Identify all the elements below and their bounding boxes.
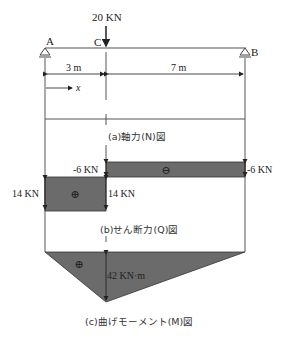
span-ac-label: 3 m bbox=[66, 62, 82, 73]
point-a-label: A bbox=[46, 35, 54, 47]
moment-max-value: 42 KN·m bbox=[107, 270, 145, 281]
dimension-cb: 7 m bbox=[108, 62, 243, 74]
negative-sign-icon: ⊖ bbox=[161, 164, 170, 176]
shear-left-value: 14 KN bbox=[12, 188, 39, 199]
point-b-label: B bbox=[251, 46, 258, 58]
beam-diagram: 20 KN A C B 3 m 7 m x (a)軸力(N)図 ⊖ ⊕ 14 K… bbox=[0, 0, 281, 338]
shear-negative-region bbox=[106, 162, 245, 177]
support-b-icon bbox=[240, 48, 250, 55]
moment-caption: (c)曲げモーメント(M)図 bbox=[85, 316, 193, 327]
positive-sign-icon: ⊕ bbox=[70, 188, 79, 200]
shear-c-negative-value: -6 KN bbox=[73, 164, 98, 175]
shear-caption: (b)せん断力(Q)図 bbox=[100, 224, 178, 235]
shear-right-value: -6 KN bbox=[247, 164, 272, 175]
support-a-icon bbox=[40, 48, 50, 55]
x-axis-arrow: x bbox=[46, 82, 81, 93]
point-c-label: C bbox=[94, 36, 101, 48]
axial-caption: (a)軸力(N)図 bbox=[108, 131, 166, 142]
shear-c-positive-value: 14 KN bbox=[108, 188, 135, 199]
x-axis-label: x bbox=[75, 82, 81, 93]
dimension-ac: 3 m bbox=[47, 62, 104, 74]
span-cb-label: 7 m bbox=[171, 62, 187, 73]
moment-positive-sign-icon: ⊕ bbox=[74, 258, 83, 270]
load-label: 20 KN bbox=[92, 11, 122, 23]
